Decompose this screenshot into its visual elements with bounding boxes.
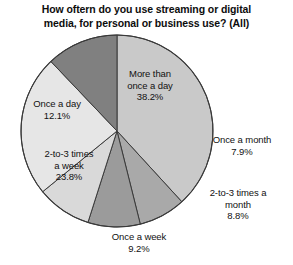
pie-label-2-to-3-times-a-week: 2-to-3 times a week 23.8% xyxy=(26,148,112,183)
pie-chart-graphic xyxy=(0,0,293,265)
pie-slice-group xyxy=(21,35,213,227)
pie-label-once-a-week: Once a week 9.2% xyxy=(92,231,186,254)
pie-label-once-a-day: Once a day 12.1% xyxy=(16,98,98,121)
pie-label-2-to-3-times-a-month: 2-to-3 times a month 8.8% xyxy=(188,187,288,222)
pie-label-more-than-once-a-day: More than once a day 38.2% xyxy=(107,68,193,103)
pie-label-once-a-month: Once a month 7.9% xyxy=(196,134,288,157)
pie-chart-figure: How oftern do you use streaming or digit… xyxy=(0,0,293,265)
